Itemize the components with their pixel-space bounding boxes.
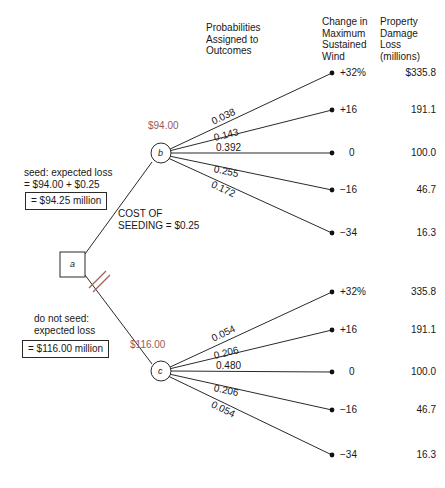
branch-b-outcome-2 xyxy=(169,110,332,151)
terminal-node-c-2 xyxy=(330,328,335,333)
loss-b-3: 100.0 xyxy=(380,147,436,158)
wind-b-5: −34 xyxy=(340,227,357,238)
chance-node-b-value: $94.00 xyxy=(148,120,179,131)
branch-c-outcome-2 xyxy=(169,330,332,369)
terminal-node-c-5 xyxy=(330,453,335,458)
branch-c-outcome-4 xyxy=(169,374,332,410)
decision-node-a-label: a xyxy=(70,259,75,269)
header-property-damage-loss: Property Damage Loss (millions) xyxy=(380,16,420,62)
loss-b-1: $335.8 xyxy=(380,67,436,78)
loss-c-3: 100.0 xyxy=(380,366,436,377)
wind-b-4: −16 xyxy=(340,184,357,195)
wind-c-4: −16 xyxy=(340,404,357,415)
pruned-hash-mark-2 xyxy=(89,271,106,288)
branch-c-outcome-3 xyxy=(170,371,332,372)
branch-c-outcome-1 xyxy=(168,292,332,368)
chance-node-c-value: $116.00 xyxy=(130,339,165,350)
terminal-node-c-3 xyxy=(330,370,335,375)
wind-b-2: +16 xyxy=(340,104,357,115)
loss-c-4: 46.7 xyxy=(380,404,436,415)
terminal-node-b-3 xyxy=(330,151,335,156)
pruned-hash-mark-1 xyxy=(93,275,110,292)
branch-c-outcome-5 xyxy=(168,376,332,455)
branch-b-outcome-4 xyxy=(169,156,332,190)
terminal-node-b-4 xyxy=(330,188,335,193)
do-not-seed-expected-loss-text: do not seed: expected loss xyxy=(34,313,95,337)
terminal-node-b-2 xyxy=(330,108,335,113)
terminal-node-c-4 xyxy=(330,408,335,413)
chance-node-c-label: c xyxy=(158,366,163,376)
seed-result-box: = $94.25 million xyxy=(25,192,107,210)
do-not-seed-result-box: = $116.00 million xyxy=(22,340,109,358)
branch-b-outcome-1 xyxy=(168,73,332,150)
wind-c-1: +32% xyxy=(340,286,366,297)
seed-expected-loss-text: seed: expected loss = $94.00 + $0.25 xyxy=(24,167,112,191)
loss-b-2: 191.1 xyxy=(380,104,436,115)
probability-c-3: 0.480 xyxy=(216,360,241,371)
loss-c-5: 16.3 xyxy=(380,449,436,460)
loss-b-4: 46.7 xyxy=(380,184,436,195)
header-wind-change: Change in Maximum Sustained Wind xyxy=(322,16,368,62)
terminal-node-b-1 xyxy=(330,71,335,76)
cost-of-seeding-note: COST OF SEEDING = $0.25 xyxy=(118,208,199,232)
wind-b-3: 0 xyxy=(349,147,355,158)
wind-b-1: +32% xyxy=(340,67,366,78)
loss-b-5: 16.3 xyxy=(380,227,436,238)
chance-node-b-label: b xyxy=(158,148,163,158)
probability-b-3: 0.392 xyxy=(216,142,241,153)
loss-c-1: 335.8 xyxy=(380,286,436,297)
header-probabilities: Probabilities Assigned to Outcomes xyxy=(206,22,260,57)
wind-c-3: 0 xyxy=(349,366,355,377)
terminal-node-b-5 xyxy=(330,231,335,236)
wind-c-2: +16 xyxy=(340,324,357,335)
loss-c-2: 191.1 xyxy=(380,324,436,335)
terminal-node-c-1 xyxy=(330,290,335,295)
wind-c-5: −34 xyxy=(340,449,357,460)
